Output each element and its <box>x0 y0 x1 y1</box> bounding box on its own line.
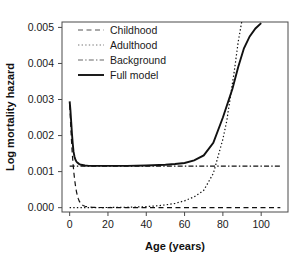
legend-label-background: Background <box>110 54 166 66</box>
x-tick-label: 20 <box>102 218 114 230</box>
y-tick-label: 0.002 <box>28 129 54 141</box>
axis-layer: 020406080100 0.0000.0010.0020.0030.0040.… <box>28 21 288 230</box>
x-tick-label: 40 <box>140 218 152 230</box>
x-axis-ticks: 020406080100 <box>67 212 270 230</box>
y-tick-label: 0.003 <box>28 93 54 105</box>
x-tick-label: 60 <box>179 218 191 230</box>
legend-label-full-model: Full model <box>110 69 158 81</box>
legend-label-adulthood: Adulthood <box>110 39 157 51</box>
series-line-childhood <box>70 105 281 208</box>
plot-frame <box>62 22 288 212</box>
legend-label-childhood: Childhood <box>110 24 157 36</box>
y-tick-label: 0.001 <box>28 165 54 177</box>
mortality-hazard-chart: 020406080100 0.0000.0010.0020.0030.0040.… <box>0 0 308 270</box>
chart-legend: ChildhoodAdulthoodBackgroundFull model <box>78 24 166 81</box>
y-tick-label: 0.004 <box>28 57 54 69</box>
x-tick-label: 80 <box>217 218 229 230</box>
y-axis-title: Log mortality hazard <box>4 63 16 171</box>
series-line-full-model <box>70 23 262 166</box>
data-series-layer <box>70 20 281 207</box>
y-tick-label: 0.000 <box>28 201 54 213</box>
y-tick-label: 0.005 <box>28 21 54 33</box>
y-axis-ticks: 0.0000.0010.0020.0030.0040.005 <box>28 21 62 213</box>
x-axis-title: Age (years) <box>145 240 205 252</box>
figure-container: 020406080100 0.0000.0010.0020.0030.0040.… <box>0 0 308 270</box>
x-tick-label: 100 <box>252 218 270 230</box>
x-tick-label: 0 <box>67 218 73 230</box>
